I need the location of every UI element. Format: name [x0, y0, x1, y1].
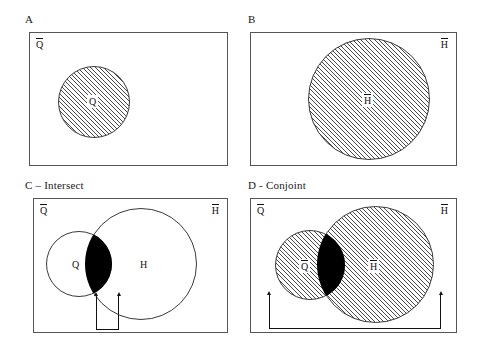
panel-c-intersection-bracket [96, 295, 119, 330]
bracket-arm-left [96, 295, 97, 330]
bracket-base [269, 328, 441, 329]
panel-d-union-bracket [269, 294, 441, 329]
panel-d-complement-q-label: Q [257, 204, 264, 216]
bracket-base [96, 329, 119, 330]
bracket-arm-right [440, 294, 441, 329]
panel-a-complement-q-label: Q [36, 38, 43, 50]
panel-d-title: D - Conjoint [248, 179, 306, 191]
overbar-text: Q [301, 260, 308, 272]
panel-c-complement-q-label: Q [40, 204, 47, 216]
bracket-arrow-left-icon [267, 291, 271, 295]
intersection-fill [85, 231, 112, 297]
panel-d-complement-h-label: H [441, 204, 448, 216]
overbar-text: Q [40, 204, 47, 216]
panel-a-title: A [25, 13, 33, 25]
panel-d-set-h-label: H [368, 259, 379, 273]
venn-diagram-figure: A Q Q B H H C – Intersect Q [0, 0, 479, 350]
panel-b: B H H [240, 0, 479, 175]
panel-d-universe-frame: Q H Q H [250, 198, 457, 333]
panel-c: C – Intersect Q H Q H [0, 175, 240, 350]
panel-c-title: C – Intersect [25, 179, 84, 191]
panel-a-universe-frame: Q Q [29, 32, 228, 166]
bracket-arrow-left-icon [94, 292, 98, 296]
overbar-text: H [441, 38, 448, 50]
panel-c-complement-h-label: H [212, 204, 219, 216]
bracket-arrow-right-icon [117, 292, 121, 296]
panel-b-title: B [248, 13, 256, 25]
bracket-arm-right [118, 295, 119, 330]
bracket-arrow-right-icon [439, 291, 443, 295]
intersection-fill [317, 230, 345, 300]
overbar-text: H [370, 260, 377, 272]
panel-a: A Q Q [0, 0, 240, 175]
panel-a-set-q-label: Q [87, 95, 98, 108]
overbar-text: Q [257, 204, 264, 216]
bracket-arm-left [269, 294, 270, 329]
panel-b-complement-h-label: H [441, 38, 448, 50]
panel-c-set-h-label: H [138, 258, 149, 271]
panel-c-universe-frame: Q H Q H [33, 198, 228, 333]
panel-c-set-q-label: Q [70, 258, 81, 271]
overbar-text: H [364, 94, 371, 106]
panel-b-set-h-label: H [362, 93, 373, 107]
overbar-text: Q [36, 38, 43, 50]
panel-d: D - Conjoint Q H Q H [240, 175, 479, 350]
panel-b-universe-frame: H H [250, 32, 457, 166]
overbar-text: H [441, 204, 448, 216]
panel-d-set-q-label: Q [299, 259, 310, 273]
overbar-text: H [212, 204, 219, 216]
